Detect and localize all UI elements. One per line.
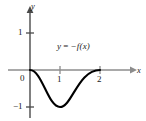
function-graph-figure: y x 0 1 −1 1 2 y=−f(x) bbox=[0, 0, 146, 121]
y-axis-label: y bbox=[31, 2, 35, 11]
y-tick-label-negative-1: −1 bbox=[13, 102, 23, 111]
x-tick-label-2: 2 bbox=[97, 75, 102, 84]
equation-annotation: y=−f(x) bbox=[57, 42, 90, 51]
x-axis-label: x bbox=[137, 66, 141, 75]
x-tick-label-1: 1 bbox=[57, 75, 62, 84]
origin-tick-label: 0 bbox=[20, 74, 25, 83]
curve-negative-f-of-x bbox=[30, 70, 100, 107]
equation-rhs: −f(x) bbox=[70, 41, 90, 51]
y-tick-label-1: 1 bbox=[18, 28, 23, 37]
x-axis-arrowhead bbox=[130, 67, 137, 74]
